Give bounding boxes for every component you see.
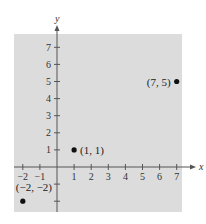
x-tick-label: 3 [106,171,111,182]
y-tick-label: 4 [46,93,51,104]
x-axis-label: x [198,161,204,172]
y-axis-arrow-icon [55,25,60,31]
x-tick-label: 1 [72,171,77,182]
x-tick-label: 6 [157,171,162,182]
x-tick-label: 5 [140,171,145,182]
y-tick-label: 1 [46,144,51,155]
data-point-label: (7, 5) [147,76,171,89]
y-tick-label: 7 [46,42,51,53]
x-tick-label: 2 [89,171,94,182]
data-point-marker [174,79,179,84]
y-tick-label: 2 [46,127,51,138]
data-point-marker [20,199,25,204]
x-tick-label: 7 [174,171,179,182]
data-point-marker [72,147,77,152]
y-axis-label: y [54,13,60,24]
data-point-label: (−2, −2) [16,181,53,194]
y-tick-label: 3 [46,110,51,121]
coordinate-plane: xy −2−112345671234567 (7, 5)(1, 1)(−2, −… [0,0,206,224]
y-tick-label: 6 [46,59,51,70]
x-tick-label: 4 [123,171,128,182]
data-point-label: (1, 1) [80,144,104,157]
y-tick-label: 5 [46,76,51,87]
x-axis-arrow-icon [190,165,196,170]
